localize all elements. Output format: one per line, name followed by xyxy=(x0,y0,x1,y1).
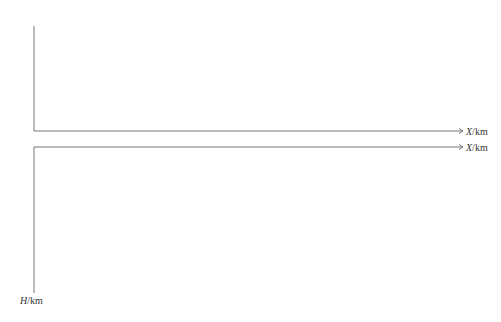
bottom-panel: X/km H/km xyxy=(0,0,488,306)
top-x-axis-label: X/km xyxy=(465,126,488,137)
bottom-x-axis-label: X/km xyxy=(465,142,488,153)
bottom-y-axis-label: H/km xyxy=(19,295,43,306)
top-panel: X/km xyxy=(34,26,488,137)
gravity-profile-chart: X/km X/km H/km xyxy=(0,0,501,322)
